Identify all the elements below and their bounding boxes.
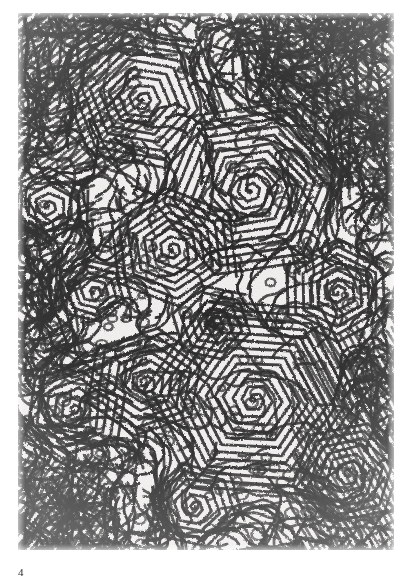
figure-page: 4 [0, 0, 411, 586]
labyrinth-pattern [18, 13, 394, 550]
micrograph-plate [18, 13, 394, 550]
figure-number-caption: 4 [18, 563, 138, 581]
